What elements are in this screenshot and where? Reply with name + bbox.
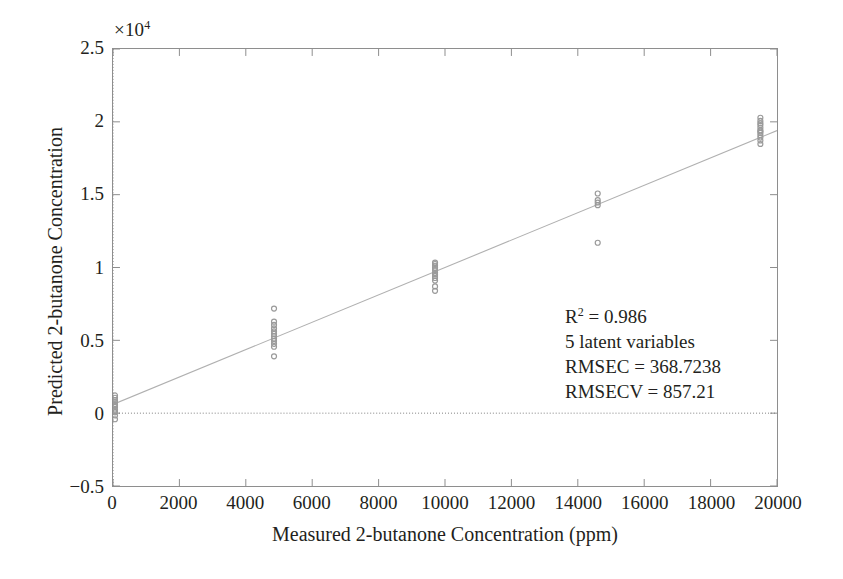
x-axis-tick-label: 20000	[754, 492, 802, 514]
x-axis-tick-label: 4000	[226, 492, 264, 514]
y-axis-multiplier: ×104	[114, 18, 151, 41]
plot-canvas	[113, 49, 777, 486]
statistics-annotation: R2 = 0.986 5 latent variables RMSEC = 36…	[565, 300, 721, 404]
x-axis-tick-label: 10000	[421, 492, 469, 514]
data-point	[272, 306, 277, 311]
x-axis-tick-label: 14000	[554, 492, 602, 514]
data-point	[595, 240, 600, 245]
data-point	[758, 115, 763, 120]
x-axis-tick-label: 12000	[488, 492, 536, 514]
x-axis-tick-label: 2000	[160, 492, 198, 514]
x-axis-tick-label: 6000	[293, 492, 331, 514]
plot-area	[112, 48, 778, 487]
x-axis-tick-label: 0	[107, 492, 117, 514]
data-point	[272, 319, 277, 324]
y-axis-title: Predicted 2-butanone Concentration	[44, 12, 67, 532]
y-axis-multiplier-base: ×10	[114, 19, 144, 40]
latent-variables-line: 5 latent variables	[565, 329, 721, 354]
x-axis-title: Measured 2-butanone Concentration (ppm)	[112, 523, 778, 546]
r-squared-value: = 0.986	[584, 306, 647, 327]
scatter-plot-figure: ×104 −0.500.511.522.5 020004000600080001…	[0, 0, 843, 579]
y-axis-multiplier-exponent: 4	[144, 18, 150, 32]
rmsec-line: RMSEC = 368.7238	[565, 354, 721, 379]
rmsecv-line: RMSECV = 857.21	[565, 379, 721, 404]
x-axis-tick-label: 8000	[359, 492, 397, 514]
x-axis-tick-label: 16000	[621, 492, 669, 514]
r-squared-line: R2 = 0.986	[565, 300, 721, 329]
data-point	[272, 354, 277, 359]
data-point	[595, 191, 600, 196]
x-axis-tick-label: 18000	[688, 492, 736, 514]
r-squared-symbol: R	[565, 306, 578, 327]
